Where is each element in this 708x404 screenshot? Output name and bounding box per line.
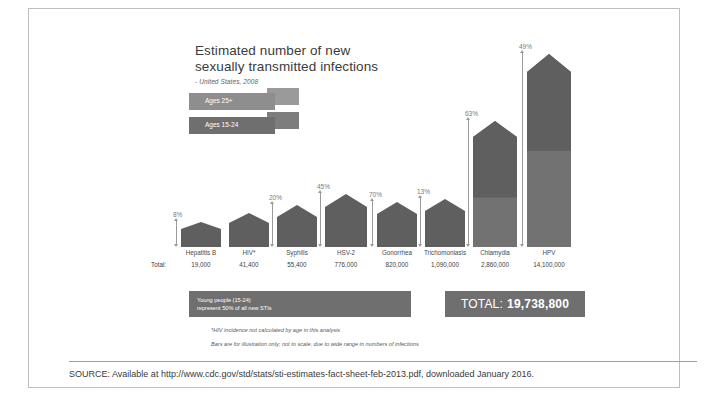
- axis-label: Chlamydia: [465, 249, 525, 256]
- bar-hiv: [229, 37, 269, 247]
- bar-shape: [277, 205, 317, 247]
- axis-label: HPV: [519, 249, 579, 256]
- bar-chart: 8%20%45%70%13%63%49%: [181, 37, 581, 247]
- percent-arrow-icon: [320, 192, 321, 245]
- percent-arrow-icon: [272, 203, 273, 245]
- percent-label: 63%: [465, 110, 478, 117]
- axis-label: HSV-2: [317, 249, 375, 256]
- young-people-text: Young people (15-24) represent 50% of al…: [197, 297, 272, 312]
- percent-label: 8%: [173, 211, 182, 218]
- footnote-hiv: *HIV incidence not calculated by age in …: [211, 327, 340, 333]
- bar-segment-ages-15-24: [527, 54, 571, 151]
- percent-arrow-icon: [468, 119, 469, 245]
- bar-shape: [425, 199, 465, 247]
- total-value: 2,860,000: [465, 261, 525, 268]
- grand-total-value: 19,738,800: [507, 297, 569, 311]
- totals-row-caption: Total:: [151, 261, 166, 268]
- bar-shape: [229, 213, 269, 247]
- source-text: SOURCE: Available at http://www.cdc.gov/…: [69, 369, 534, 379]
- young-people-line-1: Young people (15-24): [197, 297, 272, 305]
- top-cropped-caption: [8, 0, 668, 7]
- page-root: Estimated number of new sexually transmi…: [0, 0, 708, 404]
- bar-shape: [377, 202, 417, 247]
- percent-arrow-icon: [372, 200, 373, 245]
- legend-label-ages-25plus: Ages 25+: [205, 97, 233, 104]
- axis-category-labels: Hepatitis BHIV*SyphilisHSV-2GonorrheaTri…: [181, 249, 581, 261]
- bar-hsv-2: [325, 37, 367, 247]
- percent-arrow-icon: [420, 197, 421, 245]
- percent-label: 49%: [519, 43, 532, 50]
- bar-shape: [473, 121, 517, 247]
- young-people-bar: Young people (15-24) represent 50% of al…: [189, 291, 411, 317]
- percent-arrow-icon: [176, 220, 177, 245]
- percent-arrow-icon: [522, 52, 523, 245]
- bar-chlamydia: [473, 37, 517, 247]
- bar-gonorrhea: [377, 37, 417, 247]
- bar-segment-ages-15-24: [473, 121, 517, 198]
- bar-shape: [527, 54, 571, 247]
- bar-shape: [325, 194, 367, 247]
- source-divider: [69, 361, 697, 362]
- bar-hpv: [527, 37, 571, 247]
- bar-shape: [181, 222, 221, 247]
- bar-syphilis: [277, 37, 317, 247]
- bar-trichomoniasis: [425, 37, 465, 247]
- percent-label: 45%: [317, 183, 330, 190]
- percent-label: 20%: [269, 194, 282, 201]
- grand-total-box: TOTAL: 19,738,800: [445, 291, 585, 317]
- percent-label: 13%: [417, 188, 430, 195]
- grand-total-label: TOTAL:: [461, 297, 503, 311]
- footnote-scale: Bars are for illustration only; not to s…: [211, 341, 419, 347]
- totals-row: 19,00041,40055,400776,000820,0001,090,00…: [181, 261, 581, 273]
- bar-hepatitis-b: [181, 37, 221, 247]
- total-value: 776,000: [317, 261, 375, 268]
- figure-frame: Estimated number of new sexually transmi…: [28, 8, 680, 388]
- total-value: 14,100,000: [519, 261, 579, 268]
- percent-label: 70%: [369, 191, 382, 198]
- legend-label-ages-15-24: Ages 15-24: [205, 121, 238, 128]
- infographic-panel: Estimated number of new sexually transmi…: [167, 27, 587, 337]
- young-people-line-2: represent 50% of all new STIs: [197, 305, 272, 313]
